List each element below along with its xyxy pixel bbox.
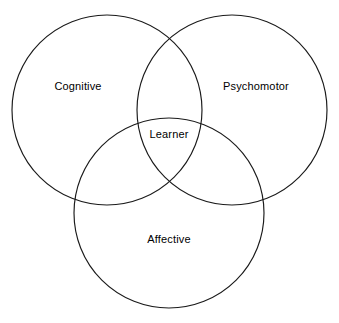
- label-cognitive: Cognitive: [54, 80, 101, 92]
- circle-psychomotor: [137, 15, 327, 205]
- label-psychomotor: Psychomotor: [223, 80, 289, 92]
- circle-affective: [74, 118, 264, 308]
- circle-cognitive: [12, 15, 202, 205]
- venn-diagram: Cognitive Psychomotor Learner Affective: [0, 0, 339, 323]
- label-learner: Learner: [150, 128, 189, 140]
- venn-diagram-canvas: Cognitive Psychomotor Learner Affective: [0, 0, 339, 323]
- label-affective: Affective: [147, 233, 190, 245]
